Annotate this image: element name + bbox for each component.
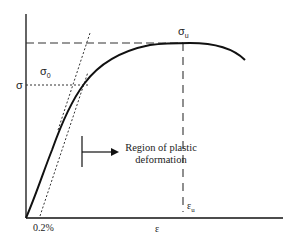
arrow-head-icon [111,148,119,156]
strain-axis-label: ε [155,224,159,234]
sigma-axis-label: σ [16,80,23,91]
offset-label: 0.2% [33,223,54,233]
plastic-region-label: Region of plastic deformation [121,142,201,166]
region-label-line2: deformation [121,154,201,166]
ultimate-strain-label: εu [187,201,195,214]
region-label-line1: Region of plastic [121,142,201,154]
yield-stress-label: σ0 [40,66,51,79]
stress-strain-diagram [0,0,296,242]
offset-line [40,72,88,216]
stress-strain-curve [26,43,245,218]
ultimate-stress-label: σu [178,26,189,39]
